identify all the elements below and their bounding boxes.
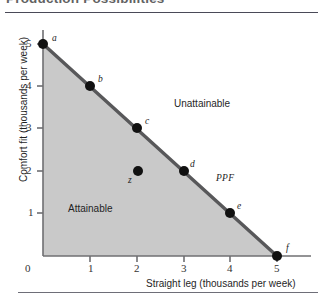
data-point-d[interactable] bbox=[179, 166, 189, 176]
data-point-b[interactable] bbox=[85, 81, 95, 91]
data-point-c[interactable] bbox=[132, 123, 142, 133]
data-point-a[interactable] bbox=[38, 39, 48, 49]
point-label-b: b bbox=[98, 74, 103, 84]
y-axis-title: Comfort fit (thousands per week) bbox=[18, 37, 29, 182]
x-tick-label-4: 4 bbox=[227, 262, 233, 274]
unattainable-label: Unattainable bbox=[174, 98, 230, 109]
data-point-e[interactable] bbox=[225, 208, 235, 218]
point-label-z: z bbox=[128, 175, 132, 185]
bottom-divider bbox=[18, 292, 318, 293]
x-tick-label-1: 1 bbox=[88, 262, 94, 274]
attainable-label: Attainable bbox=[68, 203, 112, 214]
x-tick-label-3: 3 bbox=[181, 262, 187, 274]
data-point-z[interactable] bbox=[133, 166, 143, 176]
point-label-a: a bbox=[52, 33, 57, 43]
x-tick-label-0: 0 bbox=[25, 262, 31, 274]
x-tick-label-5: 5 bbox=[274, 262, 280, 274]
x-axis-title: Straight leg (thousands per week) bbox=[146, 278, 296, 289]
y-tick-label-1: 1 bbox=[28, 206, 34, 218]
ppf-chart bbox=[0, 0, 325, 300]
figure-container: Production Possibilities a b c d e bbox=[0, 0, 325, 300]
point-label-d: d bbox=[190, 159, 195, 169]
point-label-e: e bbox=[237, 201, 241, 211]
data-point-f[interactable] bbox=[272, 251, 282, 261]
point-label-c: c bbox=[145, 116, 149, 126]
x-tick-label-2: 2 bbox=[134, 262, 140, 274]
point-label-f: f bbox=[286, 243, 289, 253]
ppf-curve-label: PPF bbox=[216, 173, 234, 183]
